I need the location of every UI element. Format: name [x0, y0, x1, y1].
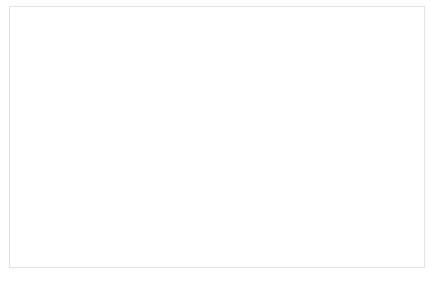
chart-frame	[9, 6, 425, 268]
plot-area	[58, 37, 432, 229]
chart-container	[0, 0, 435, 281]
